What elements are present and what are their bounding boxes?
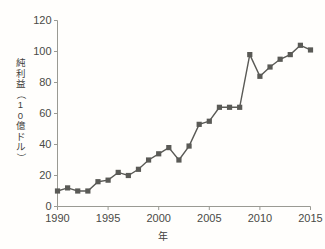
x-tick-label: 2000 xyxy=(139,213,179,224)
data-point-marker xyxy=(227,105,232,110)
data-point-marker xyxy=(126,173,131,178)
y-tick-label: 40 xyxy=(39,139,51,150)
data-point-marker xyxy=(95,179,100,184)
chart-axes xyxy=(58,21,311,207)
data-point-marker xyxy=(267,64,272,69)
chart-figure: 純利益（10億ドル） 年 020406080100120 19901995200… xyxy=(0,0,325,249)
data-point-marker xyxy=(176,157,181,162)
x-tick-label: 2015 xyxy=(291,213,325,224)
y-tick-label: 80 xyxy=(39,77,51,88)
data-point-marker xyxy=(197,122,202,127)
y-axis-label: 純利益（10億ドル） xyxy=(13,58,28,163)
data-point-marker xyxy=(136,167,141,172)
data-point-marker xyxy=(106,178,111,183)
y-axis-label-char: 純 xyxy=(13,58,28,69)
y-axis-label-char: 億 xyxy=(13,121,28,132)
x-tick-label: 1995 xyxy=(88,213,128,224)
data-point-marker xyxy=(288,52,293,57)
data-point-marker xyxy=(257,74,262,79)
data-point-marker xyxy=(65,185,70,190)
data-point-marker xyxy=(237,105,242,110)
chart-tick-marks xyxy=(54,21,311,211)
data-point-marker xyxy=(75,188,80,193)
data-markers xyxy=(55,43,313,194)
data-point-marker xyxy=(298,43,303,48)
data-point-marker xyxy=(247,52,252,57)
data-point-marker xyxy=(207,119,212,124)
x-tick-label: 2010 xyxy=(240,213,280,224)
data-point-marker xyxy=(217,105,222,110)
x-axis-label: 年 xyxy=(0,228,325,243)
y-tick-label: 60 xyxy=(39,108,51,119)
data-point-marker xyxy=(146,157,151,162)
data-point-marker xyxy=(55,188,60,193)
data-point-marker xyxy=(116,170,121,175)
data-point-marker xyxy=(186,143,191,148)
data-point-marker xyxy=(85,188,90,193)
data-point-marker xyxy=(156,151,161,156)
x-tick-label: 2005 xyxy=(189,213,229,224)
y-tick-label: 100 xyxy=(33,46,51,57)
y-tick-label: 120 xyxy=(33,15,51,26)
y-tick-label: 20 xyxy=(39,170,51,181)
data-point-marker xyxy=(278,57,283,62)
y-axis-label-char: ） xyxy=(15,150,26,165)
data-point-marker xyxy=(166,145,171,150)
x-tick-label: 1990 xyxy=(38,213,78,224)
y-tick-label: 0 xyxy=(45,201,51,212)
data-point-marker xyxy=(308,47,313,52)
y-axis-label-char: （ xyxy=(15,87,26,102)
